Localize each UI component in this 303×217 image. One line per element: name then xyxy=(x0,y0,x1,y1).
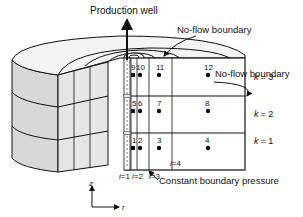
cell-label: 10 xyxy=(136,63,145,72)
coordinate-axes: z r xyxy=(88,179,125,212)
column-label-i1: i=1 xyxy=(119,172,130,181)
cell-label: 8 xyxy=(205,99,210,108)
column-label-i2: i=2 xyxy=(132,172,143,181)
cell-label: 7 xyxy=(157,99,162,108)
r-axis-label: r xyxy=(122,203,125,212)
cell-label: 11 xyxy=(156,63,165,72)
constant-boundary-pressure-label: Constant boundary pressure xyxy=(159,175,279,186)
no-flow-boundary-top-label: No-flow boundary xyxy=(177,24,252,35)
cell-label: 2 xyxy=(138,136,143,145)
z-axis-label: z xyxy=(88,179,93,188)
cell-label: 4 xyxy=(205,136,210,145)
cell-label: 3 xyxy=(157,136,162,145)
no-flow-boundary-side-label: No-flow boundary xyxy=(215,68,290,79)
cell-label: 12 xyxy=(204,63,213,72)
production-well-label: Production well xyxy=(90,5,158,16)
cell-label: 5 xyxy=(132,99,137,108)
reservoir-grid-diagram: Production well 9 10 11 12 5 6 7 8 1 2 3… xyxy=(0,0,303,217)
cell-label: 1 xyxy=(132,136,137,145)
cell-label: 6 xyxy=(138,99,143,108)
layer-label-k2: k= 2 xyxy=(254,109,273,119)
column-label-i4: i=4 xyxy=(170,159,181,168)
layer-label-k1: k= 1 xyxy=(254,136,273,146)
